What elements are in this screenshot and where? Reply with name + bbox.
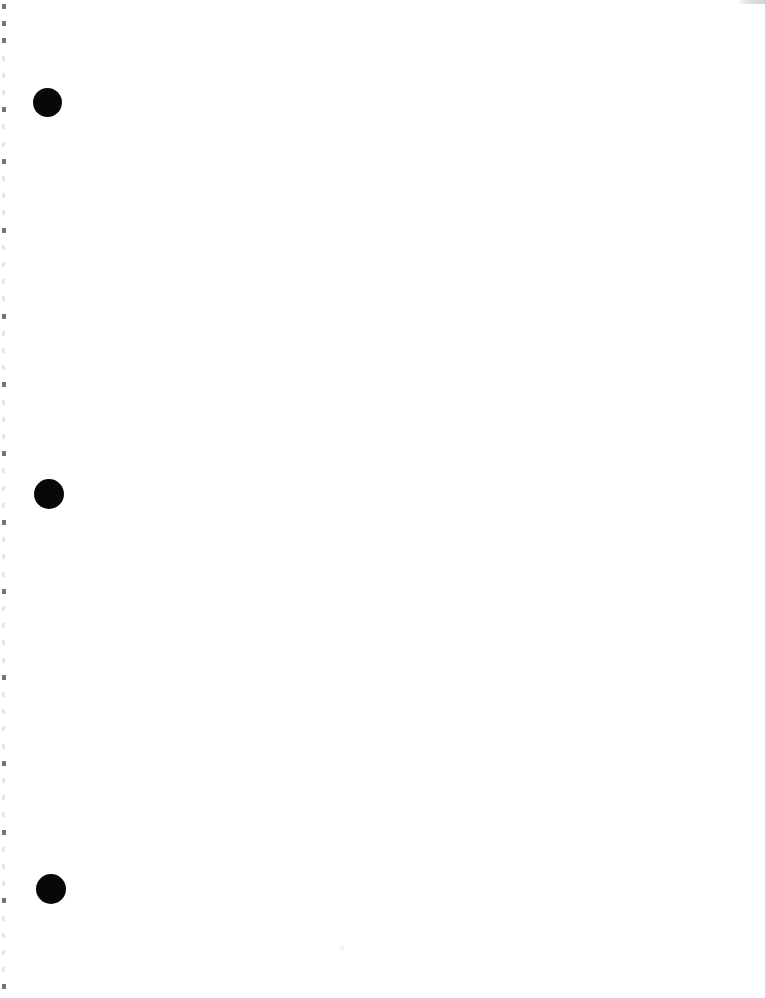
scan-edge-tick xyxy=(2,159,6,164)
scan-edge-tick xyxy=(2,812,5,817)
scan-edge-tick xyxy=(2,38,6,43)
scan-edge-tick xyxy=(2,726,5,731)
scan-edge-tick xyxy=(2,4,6,9)
scan-edge-tick xyxy=(2,400,5,405)
scan-edge-tick xyxy=(2,898,6,903)
scan-edge-tick xyxy=(2,296,5,301)
top-right-scan-band xyxy=(739,0,765,4)
scan-edge-tick xyxy=(2,228,6,233)
scan-edge-tick xyxy=(2,468,5,473)
scan-edge-tick xyxy=(2,606,5,611)
scan-edge-tick xyxy=(2,709,5,714)
scan-edge-tick xyxy=(2,124,5,129)
scan-edge-tick xyxy=(2,279,5,284)
scan-edge-tick xyxy=(2,967,5,972)
scan-edge-tick xyxy=(2,761,6,766)
scan-edge-tick xyxy=(2,142,5,147)
scan-edge-tick xyxy=(2,847,5,852)
scan-edge-tick xyxy=(2,554,5,559)
document-page xyxy=(0,0,765,998)
scan-edge-tick xyxy=(2,73,5,78)
scan-edge-tick xyxy=(2,830,6,835)
bullet-marker-1 xyxy=(33,88,62,117)
scan-edge-tick xyxy=(2,193,5,198)
scan-edge-tick xyxy=(2,572,5,577)
scan-edge-tick xyxy=(2,658,5,663)
scan-edge-tick xyxy=(2,245,5,250)
scan-edge-tick xyxy=(2,90,5,95)
scan-edge-tick xyxy=(2,348,5,353)
scan-edge-tick xyxy=(2,417,5,422)
scan-edge-tick xyxy=(2,382,6,387)
scan-edge-tick xyxy=(2,107,6,112)
scan-edge-tick xyxy=(2,623,5,628)
scan-edge-tick xyxy=(2,640,5,645)
scan-edge-tick xyxy=(2,210,5,215)
scan-edge-tick xyxy=(2,262,5,267)
scan-edge-tick xyxy=(2,365,5,370)
scan-edge-tick xyxy=(2,864,5,869)
scan-edge-tick xyxy=(2,589,6,594)
scan-edge-tick xyxy=(2,692,5,697)
scan-edge-tick xyxy=(2,744,5,749)
scan-edge-tick xyxy=(2,537,5,542)
scan-edge-tick xyxy=(2,950,5,955)
scan-edge-tick xyxy=(2,520,6,525)
page-body-text xyxy=(0,0,1,1)
scan-edge-tick xyxy=(2,434,5,439)
scan-edge-tick xyxy=(2,984,6,989)
scan-edge-tick xyxy=(2,795,5,800)
scan-edge-tick xyxy=(2,916,5,921)
scan-edge-tick xyxy=(2,675,6,680)
scan-edge-tick xyxy=(2,503,5,508)
scan-edge-tick xyxy=(2,331,5,336)
scan-edge-tick xyxy=(2,778,5,783)
scan-edge-tick xyxy=(2,176,5,181)
scan-edge-dashes xyxy=(0,0,9,998)
bullet-marker-3 xyxy=(36,874,66,904)
scan-edge-tick xyxy=(2,881,5,886)
scan-edge-tick xyxy=(2,933,5,938)
scan-edge-tick xyxy=(2,56,5,61)
page-speck-artifact xyxy=(340,946,344,951)
scan-edge-tick xyxy=(2,314,6,319)
bullet-marker-2 xyxy=(34,479,64,509)
scan-edge-tick xyxy=(2,486,5,491)
scan-edge-tick xyxy=(2,451,6,456)
scan-edge-tick xyxy=(2,21,6,26)
